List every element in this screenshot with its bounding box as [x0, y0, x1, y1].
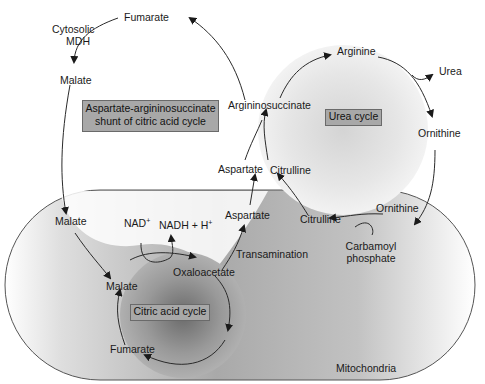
- nadh-label: NADH + H+: [159, 219, 212, 231]
- shunt-title-line1: Aspartate-argininosuccinate: [83, 102, 218, 115]
- shunt-title-line2: shunt of citric acid cycle: [83, 115, 218, 128]
- citrulline-cytosol-label: Citrulline: [270, 164, 311, 176]
- urea-cycle-circle: [258, 45, 428, 215]
- cytosolic-mdh-label: Cytosolic MDH: [52, 23, 92, 47]
- diagram-graphics: [0, 0, 485, 384]
- aspartate-cytosol-label: Aspartate: [218, 163, 263, 175]
- citric-acid-cycle-box: Citric acid cycle: [130, 304, 210, 321]
- oxaloacetate-label: Oxaloacetate: [173, 266, 235, 278]
- transamination-label: Transamination: [236, 248, 308, 260]
- urea-label: Urea: [439, 65, 462, 77]
- mitochondria-label: Mitochondria: [336, 362, 396, 374]
- argininosuccinate-label: Argininosuccinate: [228, 99, 311, 111]
- nad-label: NAD+: [124, 217, 150, 229]
- malate-cycle-label: Malate: [106, 280, 138, 292]
- citrulline-mito-label: Citrulline: [300, 213, 341, 225]
- shunt-title-box: Aspartate-argininosuccinate shunt of cit…: [82, 100, 219, 132]
- cytosolic-mdh-line1: Cytosolic: [52, 23, 92, 35]
- cytosolic-mdh-line2: MDH: [52, 35, 92, 47]
- nadh-superscript: +: [208, 219, 212, 226]
- nad-superscript: +: [146, 217, 150, 224]
- nad-text: NAD: [124, 217, 146, 229]
- nadh-text: NADH + H: [159, 219, 208, 231]
- ornithine-mito-label: Ornithine: [376, 202, 419, 214]
- ornithine-cytosol-label: Ornithine: [418, 127, 461, 139]
- malate-cytosol-label: Malate: [60, 74, 92, 86]
- fumarate-cycle-label: Fumarate: [110, 343, 155, 355]
- shunt-diagram: Fumarate Cytosolic MDH Malate Aspartate-…: [0, 0, 485, 384]
- carbamoyl-line2: phosphate: [343, 252, 399, 264]
- urea-cycle-box: Urea cycle: [325, 109, 382, 126]
- carbamoyl-line1: Carbamoyl: [343, 240, 399, 252]
- malate-mito-label: Malate: [55, 215, 87, 227]
- arginine-label: Arginine: [337, 45, 376, 57]
- fumarate-cytosol-label: Fumarate: [124, 11, 169, 23]
- carbamoyl-phosphate-label: Carbamoyl phosphate: [343, 240, 399, 264]
- aspartate-mito-label: Aspartate: [225, 209, 270, 221]
